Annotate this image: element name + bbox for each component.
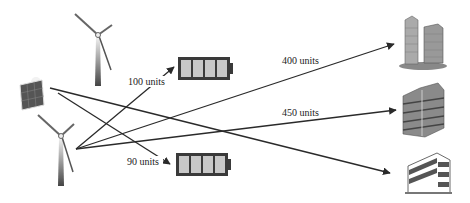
battery-icon: [176, 153, 231, 176]
label-building-top: 400 units: [282, 55, 319, 66]
wind-turbine-icon: [38, 115, 74, 186]
label-battery-top: 100 units: [128, 76, 165, 87]
label-battery-bottom: 90 units: [127, 156, 159, 167]
apartment-block-icon: [403, 83, 444, 137]
label-building-middle: 450 units: [282, 107, 319, 118]
office-building-icon: [405, 153, 452, 194]
battery-icon: [178, 57, 233, 80]
energy-flow-diagram: 100 units 90 units 400 units 450 units: [0, 0, 470, 203]
arrow-wind-to-building-middle: [76, 110, 396, 149]
arrow-wind-to-building-top: [76, 44, 394, 149]
solar-panel-icon: [20, 77, 44, 110]
wind-turbine-icon: [75, 14, 112, 86]
office-towers-icon: [399, 16, 447, 70]
